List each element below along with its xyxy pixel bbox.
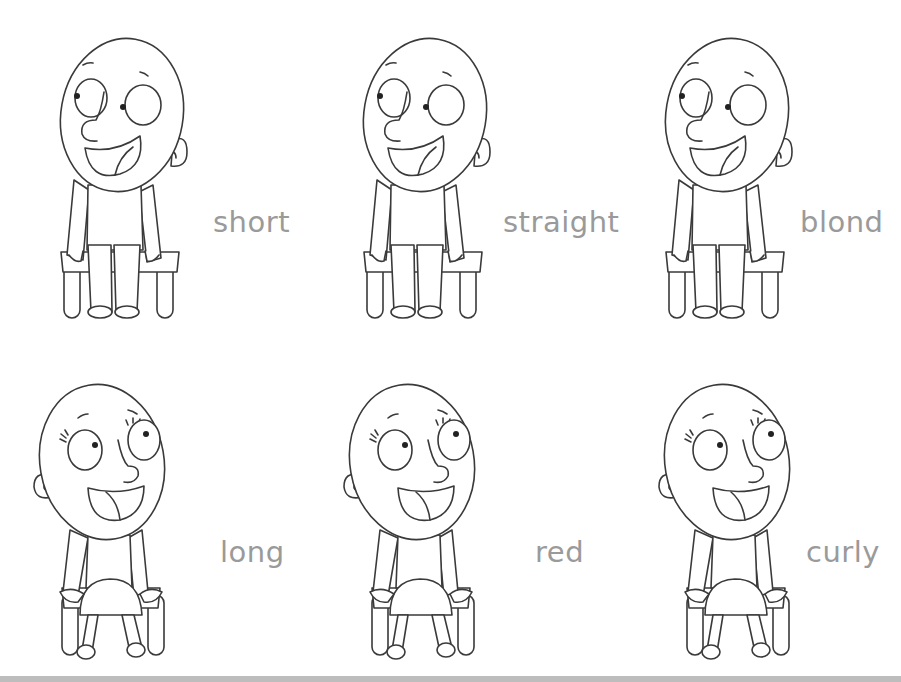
word-label: red	[535, 535, 584, 569]
word-label: long	[220, 535, 285, 569]
word-label: short	[213, 205, 290, 239]
bald-boy-on-chair-icon	[660, 30, 800, 320]
boy-illustration	[55, 30, 195, 320]
bottom-border-bar	[0, 676, 901, 682]
word-label: curly	[806, 535, 880, 569]
boy-illustration	[358, 30, 498, 320]
bald-girl-on-chair-icon	[655, 370, 795, 660]
bald-girl-on-chair-icon	[340, 370, 480, 660]
word-label: straight	[503, 205, 619, 239]
bald-boy-on-chair-icon	[55, 30, 195, 320]
word-label: blond	[800, 205, 884, 239]
boy-illustration	[660, 30, 800, 320]
girl-illustration	[655, 370, 795, 660]
girl-illustration	[340, 370, 480, 660]
bald-boy-on-chair-icon	[358, 30, 498, 320]
bald-girl-on-chair-icon	[30, 370, 170, 660]
girl-illustration	[30, 370, 170, 660]
